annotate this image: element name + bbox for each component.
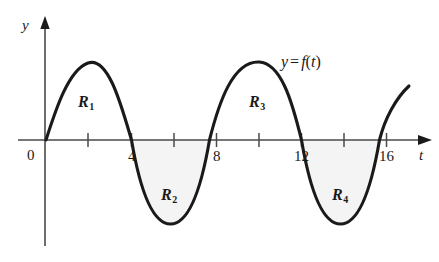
region-shade-r4: [302, 140, 380, 224]
region-shade-r2: [132, 140, 210, 224]
y-axis-label: y: [22, 18, 29, 33]
equation-close-paren: ): [315, 53, 320, 70]
curve-equation-label: y=f(t): [281, 54, 321, 70]
x-tick-label-12: 12: [294, 149, 309, 164]
x-tick-label-8: 8: [213, 149, 221, 164]
region-label-r3-subscript: 3: [260, 101, 265, 112]
function-graph-figure: y t 0 4 8 12 16 R1 R2 R3 R4 y=f(t): [0, 0, 439, 262]
x-tick-label-4: 4: [128, 149, 136, 164]
region-label-r4-name: R: [332, 186, 343, 203]
region-label-r4: R4: [332, 187, 348, 203]
plot-canvas: [0, 0, 439, 262]
region-label-r1-subscript: 1: [89, 101, 94, 112]
region-label-r2-subscript: 2: [172, 194, 177, 205]
x-axis-label: t: [419, 148, 423, 163]
region-label-r2: R2: [161, 187, 177, 203]
region-label-r1: R1: [78, 94, 94, 110]
region-label-r1-name: R: [78, 93, 89, 110]
x-tick-label-16: 16: [379, 149, 394, 164]
region-label-r4-subscript: 4: [343, 194, 348, 205]
x-axis-arrowhead: [418, 135, 432, 145]
region-label-r3-name: R: [249, 93, 260, 110]
region-label-r2-name: R: [161, 186, 172, 203]
shaded-regions: [132, 140, 380, 224]
origin-tick-label: 0: [27, 148, 35, 163]
y-axis-arrowhead: [40, 16, 49, 29]
equation-equals: =: [288, 53, 301, 70]
region-label-r3: R3: [249, 94, 265, 110]
